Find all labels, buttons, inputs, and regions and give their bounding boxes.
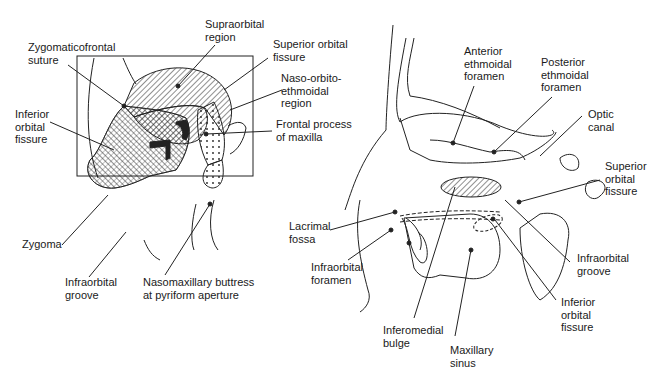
- label-supraorbital-region: Supraorbital region: [205, 18, 264, 43]
- label-inferomedial-bulge: Inferomedial bulge: [383, 324, 444, 349]
- label-zygomaticofrontal-suture: Zygomaticofrontal suture: [28, 41, 115, 66]
- label-superior-orbital-fissure-right: Superior orbital fissure: [605, 160, 647, 198]
- label-superior-orbital-fissure: Superior orbital fissure: [273, 38, 348, 63]
- label-nasomaxillary-buttress: Nasomaxillary buttress at pyriform apert…: [143, 276, 254, 301]
- label-posterior-ethmoidal-foramen: Posterior ethmoidal foramen: [541, 56, 589, 94]
- label-naso-orbito-ethmoidal-region: Naso-orbito- ethmoidal region: [281, 72, 342, 110]
- label-anterior-ethmoidal-foramen: Anterior ethmoidal foramen: [464, 45, 512, 83]
- label-inferior-orbital-fissure: Inferior orbital fissure: [15, 108, 49, 146]
- label-optic-canal: Optic canal: [588, 108, 614, 133]
- orbital-anatomy-diagram: Supraorbital region Zygomaticofrontal su…: [0, 0, 660, 379]
- left-orbit-regions-figure: [50, 45, 282, 277]
- label-infraorbital-groove: Infraorbital groove: [65, 276, 117, 301]
- label-frontal-process-of-maxilla: Frontal process of maxilla: [276, 118, 352, 143]
- label-zygoma: Zygoma: [22, 238, 62, 251]
- label-lacrimal-fossa: Lacrimal fossa: [289, 220, 331, 245]
- label-infraorbital-groove-right: Infraorbital groove: [577, 252, 629, 277]
- label-infraorbital-foramen: Infraorbital foramen: [311, 261, 363, 286]
- label-inferior-orbital-fissure-right: Inferior orbital fissure: [561, 296, 595, 334]
- label-maxillary-sinus: Maxillary sinus: [450, 344, 493, 369]
